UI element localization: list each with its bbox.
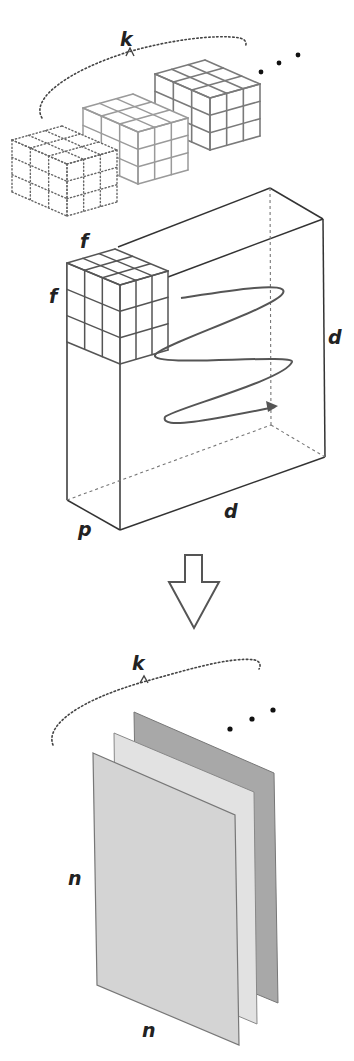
label-maps-count: k	[132, 654, 145, 673]
filter-cubes	[12, 60, 260, 216]
label-map-width: n	[142, 1021, 156, 1040]
label-filters-count-top: k	[120, 30, 133, 49]
filter-cube-active	[67, 249, 168, 364]
label-input-height: d	[328, 328, 342, 347]
scan-path	[155, 287, 292, 423]
ellipsis-dots-bottom	[227, 707, 275, 731]
convolution-diagram	[0, 0, 354, 1061]
scan-arrowhead	[266, 401, 278, 412]
label-map-height: n	[68, 869, 82, 888]
label-filter-size-top: f	[80, 232, 88, 251]
label-input-width: d	[224, 502, 238, 521]
ellipsis-dots-top	[259, 53, 301, 75]
filter-on-input	[67, 249, 168, 364]
down-arrow-icon	[169, 555, 219, 628]
label-filter-size-side: f	[49, 287, 57, 306]
label-input-depth: p	[78, 520, 92, 539]
